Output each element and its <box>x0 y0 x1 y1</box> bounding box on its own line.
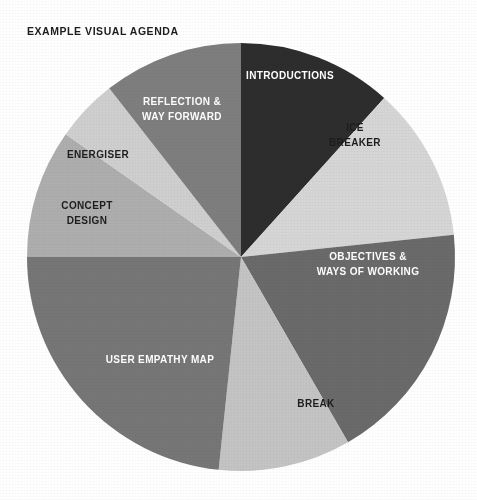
pie-chart-svg: INTRODUCTIONSICEBREAKEROBJECTIVES &WAYS … <box>0 0 477 500</box>
pie-chart-page: EXAMPLE VISUAL AGENDA INTRODUCTIONSICEBR… <box>0 0 477 500</box>
pie-slices-group <box>27 43 455 471</box>
pie-chart: INTRODUCTIONSICEBREAKEROBJECTIVES &WAYS … <box>0 0 477 500</box>
pie-slice[interactable] <box>27 257 241 470</box>
